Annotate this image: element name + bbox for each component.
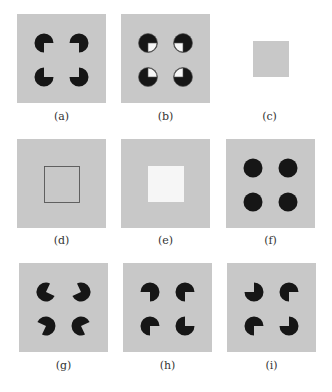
- panel-a: [17, 14, 106, 103]
- panel-background: [226, 139, 315, 228]
- panel-f: [226, 139, 315, 228]
- white-square: [148, 166, 184, 202]
- panel-b: [121, 14, 210, 103]
- panel-c: [225, 14, 314, 103]
- figure: (a) (b) (c) (d) (e) (f) (g) (h) (i): [0, 0, 332, 392]
- panel-i: [227, 263, 316, 352]
- panel-h: [123, 263, 212, 352]
- caption-d: (d): [17, 234, 106, 247]
- caption-c: (c): [225, 110, 314, 123]
- panel-background: [121, 14, 210, 103]
- panel-background: [17, 139, 106, 228]
- panel-e: [121, 139, 210, 228]
- panel-background: [123, 263, 212, 352]
- panel-background: [17, 14, 106, 103]
- panel-g: [19, 263, 108, 352]
- caption-a: (a): [17, 110, 106, 123]
- gray-square: [253, 41, 289, 77]
- disk: [279, 159, 298, 178]
- caption-f: (f): [226, 234, 315, 247]
- panel-background: [19, 263, 108, 352]
- panel-d: [17, 139, 106, 228]
- caption-i: (i): [227, 359, 316, 372]
- disk: [244, 193, 263, 212]
- disk: [244, 159, 263, 178]
- caption-b: (b): [121, 110, 210, 123]
- caption-e: (e): [121, 234, 210, 247]
- caption-g: (g): [19, 359, 108, 372]
- panel-background: [227, 263, 316, 352]
- disk: [279, 193, 298, 212]
- caption-h: (h): [123, 359, 212, 372]
